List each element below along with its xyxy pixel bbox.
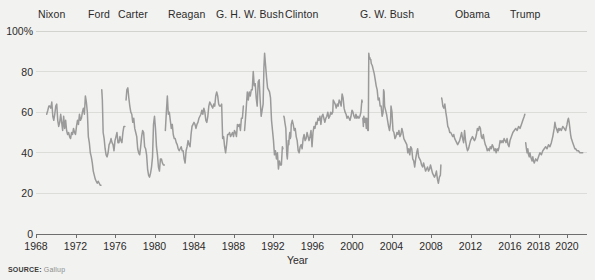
approval-line-nixon: [47, 96, 101, 185]
approval-line-g-w-bush: [363, 53, 441, 183]
source-label: SOURCE:: [8, 266, 42, 273]
x-axis-line: [36, 234, 587, 235]
approval-line-trump: [526, 118, 583, 163]
x-tick-mark-2020: [567, 234, 568, 238]
source-note: SOURCE: Gallup: [8, 266, 65, 273]
x-tick-mark-1996: [313, 234, 314, 238]
x-tick-mark-1972: [76, 234, 77, 238]
x-tick-label-2012: 2012: [459, 240, 482, 252]
x-tick-mark-1984: [194, 234, 195, 238]
x-tick-mark-2008: [431, 234, 432, 238]
approval-line-clinton: [284, 94, 362, 159]
x-tick-label-2020: 2020: [555, 240, 578, 252]
approval-line-reagan: [165, 92, 243, 163]
president-label-reagan: Reagan: [168, 8, 205, 20]
y-tick-label-40: 40: [21, 147, 33, 159]
x-tick-mark-1968: [36, 234, 37, 238]
x-tick-label-2008: 2008: [419, 240, 442, 252]
president-label-ford: Ford: [88, 8, 110, 20]
x-tick-label-2004: 2004: [380, 240, 403, 252]
y-tick-label-20: 20: [21, 187, 33, 199]
president-label-trump: Trump: [510, 8, 540, 20]
source-value: Gallup: [44, 266, 65, 273]
plot-area: [36, 31, 587, 234]
x-tick-label-1968: 1968: [24, 240, 47, 252]
approval-line-svg: [36, 31, 587, 234]
approval-line-obama: [442, 98, 525, 153]
x-tick-mark-2000: [352, 234, 353, 238]
approval-rating-chart-figure: NixonFordCarterReaganG. H. W. BushClinto…: [0, 0, 595, 280]
y-tick-label-100: 100%: [6, 25, 33, 37]
y-tick-label-0: 0: [27, 228, 33, 240]
x-tick-mark-1976: [115, 234, 116, 238]
president-label-nixon: Nixon: [38, 8, 65, 20]
x-tick-mark-2016: [510, 234, 511, 238]
x-tick-label-1976: 1976: [103, 240, 126, 252]
x-tick-mark-1992: [273, 234, 274, 238]
x-tick-mark-2012: [471, 234, 472, 238]
x-axis-label: Year: [0, 254, 595, 266]
x-tick-label-1984: 1984: [182, 240, 205, 252]
x-tick-label-1996: 1996: [301, 240, 324, 252]
president-label-obama: Obama: [455, 8, 490, 20]
y-axis: 020406080100%: [0, 31, 33, 234]
approval-line-carter: [126, 88, 164, 177]
x-tick-label-1992: 1992: [261, 240, 284, 252]
x-tick-mark-1980: [155, 234, 156, 238]
x-tick-label-1972: 1972: [64, 240, 87, 252]
y-tick-label-60: 60: [21, 106, 33, 118]
president-label-g-w-bush: G. W. Bush: [360, 8, 414, 20]
president-label-band: NixonFordCarterReaganG. H. W. BushClinto…: [0, 8, 595, 30]
x-tick-label-2016: 2016: [498, 240, 521, 252]
x-tick-mark-2018: [539, 234, 540, 238]
president-label-carter: Carter: [118, 8, 148, 20]
x-tick-label-2000: 2000: [340, 240, 363, 252]
x-tick-label-2018: 2018: [527, 240, 550, 252]
x-tick-mark-1988: [234, 234, 235, 238]
approval-line-g-h-w-bush: [245, 53, 283, 169]
approval-line-ford: [102, 90, 125, 157]
x-tick-mark-2004: [392, 234, 393, 238]
x-tick-label-1980: 1980: [143, 240, 166, 252]
y-tick-label-80: 80: [21, 66, 33, 78]
x-tick-label-1988: 1988: [222, 240, 245, 252]
president-label-g-h-w-bush: G. H. W. Bush: [216, 8, 284, 20]
president-label-clinton: Clinton: [285, 8, 318, 20]
